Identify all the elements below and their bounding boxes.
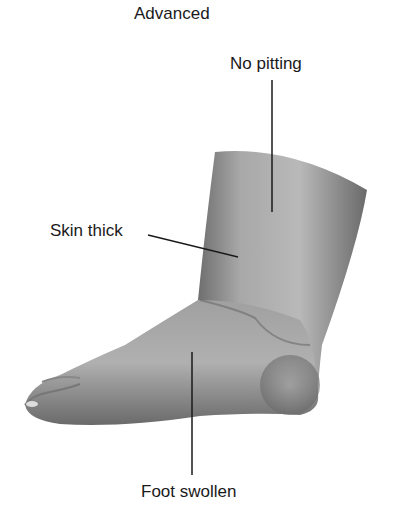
heel-shading — [260, 355, 320, 415]
foot-illustration — [0, 0, 394, 524]
toenail — [26, 401, 38, 407]
